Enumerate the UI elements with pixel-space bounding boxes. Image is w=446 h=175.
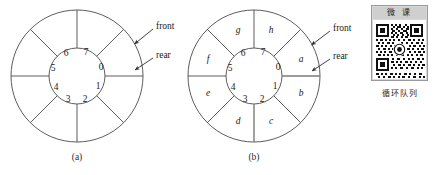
- diagram-b: 0 1 2 3 4 5 6 7 a b c d e f g h: [188, 10, 352, 142]
- qr-panel[interactable]: 微 课: [371, 5, 428, 81]
- slot-label-b-g: g: [236, 25, 241, 35]
- qr-code-image[interactable]: [373, 20, 426, 79]
- cell-label-b-3: 3: [243, 94, 248, 104]
- inner-circle-b: [226, 48, 282, 104]
- rear-arrow-b: [312, 59, 330, 71]
- cell-label-a-4: 4: [54, 82, 59, 92]
- cell-label-b-7: 7: [261, 47, 266, 57]
- spokes-a: [11, 10, 143, 142]
- slot-label-b-h: h: [269, 25, 274, 35]
- diagram-a: 0 1 2 3 4 5 6 7 front rear: [11, 10, 175, 142]
- rear-label-b: rear: [333, 51, 349, 61]
- cell-label-b-2: 2: [260, 94, 265, 104]
- slot-label-b-b: b: [299, 88, 304, 98]
- front-arrow-b: [312, 31, 331, 45]
- spokes-b: [188, 10, 320, 142]
- qr-header-label: 微 课: [373, 7, 426, 19]
- cell-label-a-1: 1: [96, 81, 101, 91]
- cell-label-b-4: 4: [231, 82, 236, 92]
- cell-label-b-6: 6: [241, 48, 246, 58]
- rear-arrow-a: [135, 58, 153, 70]
- slot-label-b-d: d: [236, 116, 241, 126]
- subfigure-caption-b: (b): [234, 152, 274, 162]
- front-arrow-a: [135, 29, 154, 44]
- cell-label-a-7: 7: [84, 47, 89, 57]
- rear-label-a: rear: [156, 50, 172, 60]
- front-label-b: front: [333, 23, 352, 33]
- front-label-a: front: [156, 21, 175, 31]
- cell-label-b-5: 5: [228, 63, 233, 73]
- cell-label-a-5: 5: [51, 63, 56, 73]
- figure-area: 0 1 2 3 4 5 6 7 front rear: [0, 0, 446, 175]
- slot-label-b-e: e: [206, 88, 210, 98]
- slot-label-b-f: f: [207, 54, 211, 64]
- annotations-a: front rear: [135, 21, 175, 70]
- subfigure-caption-a: (a): [57, 152, 97, 162]
- cell-label-a-2: 2: [83, 94, 88, 104]
- cell-label-a-3: 3: [66, 94, 71, 104]
- qr-caption: 循环队列: [364, 87, 436, 98]
- inner-circle-a: [49, 48, 105, 104]
- cell-label-a-0: 0: [99, 62, 104, 72]
- cell-label-b-1: 1: [273, 81, 278, 91]
- annotations-b: front rear: [312, 23, 352, 71]
- slot-label-b-a: a: [299, 54, 304, 64]
- cell-label-a-6: 6: [64, 48, 69, 58]
- qr-code-svg: [373, 20, 426, 79]
- cell-label-b-0: 0: [276, 62, 281, 72]
- slot-label-b-c: c: [269, 116, 274, 126]
